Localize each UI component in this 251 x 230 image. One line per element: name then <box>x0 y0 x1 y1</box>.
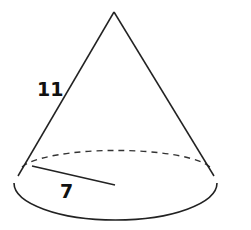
slant-height-label: 11 <box>37 78 63 100</box>
radius-label: 7 <box>60 180 73 202</box>
cone-figure: 11 7 <box>0 0 251 230</box>
base-front-arc <box>14 183 217 220</box>
cone-diagram: 11 7 <box>0 0 251 230</box>
base-back-arc <box>22 150 210 167</box>
right-slant-edge <box>114 12 214 176</box>
radius-line <box>32 166 115 185</box>
